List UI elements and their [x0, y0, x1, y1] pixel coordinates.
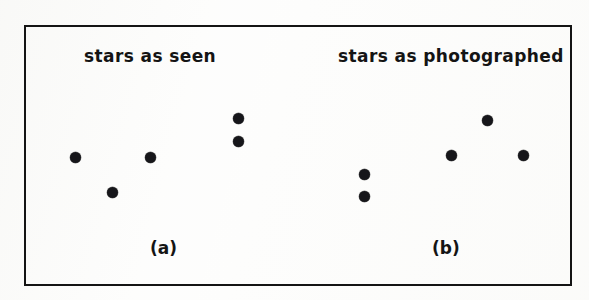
panel-a-star-dot-3: [145, 152, 156, 163]
panel-b-heading: stars as photographed: [338, 48, 564, 65]
panel-b-star-dot-3: [446, 150, 457, 161]
panel-b-star-dot-2: [359, 191, 370, 202]
panel-a-star-dot-4: [233, 113, 244, 124]
panel-a-star-dot-1: [70, 152, 81, 163]
panel-b-star-dot-1: [359, 169, 370, 180]
panel-b-stars-as-photographed: stars as photographed (b): [320, 27, 574, 284]
panel-a-heading: stars as seen: [84, 48, 216, 65]
figure-root: stars as seen (a) stars as photographed …: [0, 0, 589, 300]
panel-a-star-dot-2: [107, 187, 118, 198]
panel-b-star-dot-5: [518, 150, 529, 161]
panel-b-caption: (b): [432, 240, 460, 257]
panel-a-star-dot-5: [233, 136, 244, 147]
panel-a-caption: (a): [150, 240, 177, 257]
panel-b-star-dot-4: [482, 115, 493, 126]
figure-border-frame: stars as seen (a) stars as photographed …: [24, 25, 572, 286]
panel-a-stars-as-seen: stars as seen (a): [26, 27, 320, 284]
